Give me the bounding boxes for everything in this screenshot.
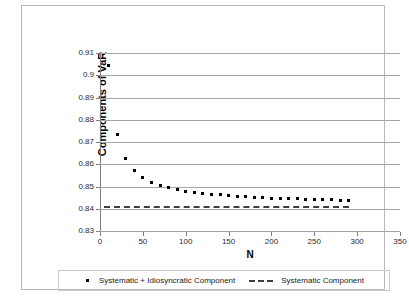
data-point [236, 195, 239, 198]
y-tick-label: 0.85 [64, 183, 94, 191]
x-axis-label: N [100, 249, 400, 260]
data-point [321, 198, 324, 201]
data-point [141, 176, 144, 179]
x-tick-label: 250 [299, 238, 329, 246]
data-point [116, 133, 119, 136]
x-tick-mark [143, 232, 144, 236]
systematic-component-line [104, 206, 348, 208]
data-point [287, 197, 290, 200]
data-point [253, 196, 256, 199]
x-tick-label: 200 [256, 238, 286, 246]
data-point [261, 196, 264, 199]
y-tick-label: 0.83 [64, 227, 94, 235]
legend-item-systematic: Systematic Component [247, 276, 364, 285]
data-point [124, 157, 127, 160]
y-tick-label: 0.87 [64, 138, 94, 146]
x-tick-label: 100 [171, 238, 201, 246]
data-point [244, 195, 247, 198]
data-point [330, 198, 333, 201]
plot-area [100, 53, 400, 231]
y-axis-label-wrapper: Components of VaR [46, 58, 64, 228]
data-point [227, 194, 230, 197]
y-tick-label: 0.86 [64, 160, 94, 168]
data-point [339, 199, 342, 202]
chart-frame: Components of VaR 0.830.840.850.860.870.… [21, 5, 385, 290]
y-tick-label: 0.89 [64, 94, 94, 102]
legend-label-systematic: Systematic Component [281, 276, 364, 285]
x-tick-label: 50 [128, 238, 158, 246]
x-tick-mark [186, 232, 187, 236]
data-point [313, 198, 316, 201]
x-tick-mark [229, 232, 230, 236]
x-tick-label: 0 [85, 238, 115, 246]
data-point [347, 199, 350, 202]
legend-label-systematic-idiosyncratic: Systematic + Idiosyncratic Component [99, 276, 235, 285]
x-tick-label: 350 [385, 238, 409, 246]
x-tick-mark [400, 232, 401, 236]
data-point [150, 181, 153, 184]
data-point [219, 193, 222, 196]
data-point [193, 191, 196, 194]
data-point [270, 197, 273, 200]
data-point [210, 193, 213, 196]
data-point [201, 192, 204, 195]
x-tick-mark [314, 232, 315, 236]
y-tick-label: 0.91 [64, 49, 94, 57]
chart-legend: Systematic + Idiosyncratic Component Sys… [58, 270, 390, 291]
data-point [296, 197, 299, 200]
y-tick-label: 0.88 [64, 116, 94, 124]
dashed-line-marker-icon [249, 280, 273, 282]
gridline [100, 231, 400, 232]
data-point [176, 188, 179, 191]
data-point [304, 198, 307, 201]
data-point [159, 184, 162, 187]
data-point [107, 64, 110, 67]
data-point [279, 197, 282, 200]
legend-item-systematic-idiosyncratic: Systematic + Idiosyncratic Component [84, 276, 235, 285]
x-tick-mark [271, 232, 272, 236]
data-point [184, 190, 187, 193]
x-tick-label: 300 [342, 238, 372, 246]
x-tick-label: 150 [214, 238, 244, 246]
x-tick-mark [357, 232, 358, 236]
y-tick-label: 0.9 [64, 71, 94, 79]
data-point [133, 169, 136, 172]
data-point [167, 186, 170, 189]
y-tick-label: 0.84 [64, 205, 94, 213]
square-dot-marker-icon [86, 279, 89, 282]
x-tick-mark [100, 232, 101, 236]
